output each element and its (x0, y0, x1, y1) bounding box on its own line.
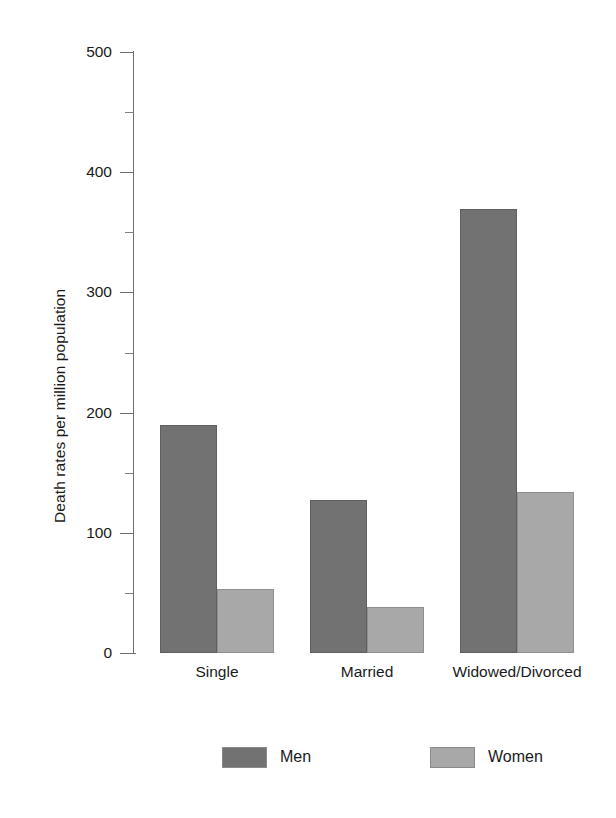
y-tick-label: 0 (7, 644, 112, 662)
plot-area (133, 52, 603, 653)
bar-women-single (217, 589, 274, 653)
bar-women-widowed-divorced (517, 492, 574, 653)
legend-item-women: Women (430, 744, 543, 770)
legend-item-men: Men (222, 744, 311, 770)
bar-men-single (160, 425, 217, 653)
y-tick-label: 400 (7, 163, 112, 181)
y-tick-major (120, 52, 134, 53)
y-tick-major (120, 172, 134, 173)
bar-men-widowed-divorced (460, 209, 517, 653)
y-tick-label: 300 (7, 283, 112, 301)
bar-women-married (367, 607, 424, 653)
y-tick-label: 500 (7, 43, 112, 61)
legend-label-men: Men (280, 748, 311, 766)
x-axis-label-single: Single (195, 663, 238, 681)
bar-chart: Death rates per million population 01002… (0, 0, 616, 818)
x-axis-label-married: Married (341, 663, 394, 681)
y-tick-label: 100 (7, 524, 112, 542)
y-tick-major (120, 413, 134, 414)
bar-men-married (310, 500, 367, 653)
legend-swatch-men (222, 747, 267, 768)
y-tick-major (120, 653, 134, 654)
legend-swatch-women (430, 747, 475, 768)
y-tick-major (120, 292, 134, 293)
y-tick-label: 200 (7, 404, 112, 422)
legend-label-women: Women (488, 748, 543, 766)
x-axis-label-widowed-divorced: Widowed/Divorced (452, 663, 581, 681)
y-tick-major (120, 533, 134, 534)
chart-legend: MenWomen (0, 744, 616, 774)
